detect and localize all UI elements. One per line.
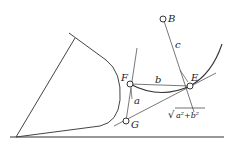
tick-a [131,88,132,99]
point-g [123,118,129,124]
label-a: a [134,95,140,106]
point-e [187,83,193,89]
sqrt-symbol: √ [168,109,175,120]
left-shape [16,33,120,137]
sqrt-expression: a²+b² [176,111,199,120]
label-e: E [190,72,199,83]
label-c: c [175,39,181,50]
tick-e [180,70,188,82]
line-c [164,21,194,112]
label-b-seg: b [155,74,161,85]
point-b [160,16,166,22]
label-b-point: B [167,13,175,24]
geometry-diagram: B F E G a b c √ a²+b² [0,0,244,146]
label-f: F [120,72,129,83]
label-g: G [131,119,139,130]
